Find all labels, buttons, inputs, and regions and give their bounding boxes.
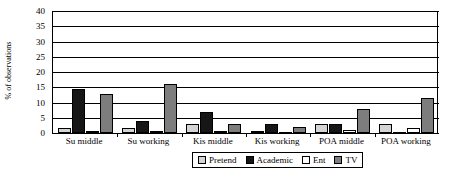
- bar-pretend[interactable]: [58, 128, 71, 133]
- legend-item-ent[interactable]: Ent: [302, 156, 326, 165]
- legend-swatch-academic-icon: [246, 156, 254, 164]
- plot-area: [52, 11, 439, 134]
- bar-group-bars: [182, 11, 246, 133]
- bar-tv[interactable]: [293, 127, 306, 133]
- bar-pretend[interactable]: [379, 124, 392, 133]
- bar-tv[interactable]: [164, 84, 177, 133]
- bar-pretend[interactable]: [251, 131, 264, 133]
- bar-ent[interactable]: [343, 130, 356, 133]
- bar-academic[interactable]: [265, 124, 278, 133]
- bar-academic[interactable]: [329, 124, 342, 133]
- bar-group-bars: [246, 11, 310, 133]
- bar-academic[interactable]: [200, 112, 213, 133]
- x-axis-category-label: Su middle: [66, 136, 103, 147]
- x-axis-category-label: POA middle: [319, 136, 364, 147]
- chart-legend: PretendAcademicEntTV: [192, 152, 363, 168]
- y-axis-tick-label: 10: [36, 98, 45, 107]
- legend-label: Ent: [313, 156, 326, 165]
- bar-ent[interactable]: [407, 128, 420, 133]
- y-axis-tick-labels: 4035302520151050: [18, 6, 48, 136]
- bar-pretend[interactable]: [315, 124, 328, 133]
- bar-academic[interactable]: [136, 121, 149, 133]
- legend-item-academic[interactable]: Academic: [246, 156, 293, 165]
- y-axis-tick-label: 15: [36, 83, 45, 92]
- bar-tv[interactable]: [357, 109, 370, 133]
- x-axis-category-label: Kis working: [255, 136, 300, 147]
- bar-ent[interactable]: [279, 132, 292, 133]
- y-axis-tick-label: 0: [41, 129, 46, 138]
- bar-chart: % of observations 4035302520151050 Su mi…: [0, 0, 451, 176]
- bar-group: [182, 11, 246, 133]
- y-axis-tick-label: 30: [36, 37, 45, 46]
- x-axis-category-label: Kis middle: [193, 136, 233, 147]
- bar-tv[interactable]: [421, 98, 434, 133]
- legend-swatch-pretend-icon: [198, 156, 206, 164]
- bar-group: [117, 11, 181, 133]
- legend-label: Pretend: [209, 156, 237, 165]
- bar-group: [375, 11, 439, 133]
- bar-group-bars: [310, 11, 374, 133]
- x-axis-category-label: Su working: [128, 136, 170, 147]
- x-axis-category-labels: Su middleSu workingKis middleKis working…: [52, 136, 438, 150]
- bar-group: [246, 11, 310, 133]
- y-axis-tick-label: 5: [41, 113, 46, 122]
- bar-group-bars: [117, 11, 181, 133]
- bar-ent[interactable]: [214, 131, 227, 133]
- legend-label: TV: [345, 156, 357, 165]
- legend-label: Academic: [257, 156, 293, 165]
- y-axis-tick-label: 20: [36, 68, 45, 77]
- bar-group-bars: [375, 11, 439, 133]
- bar-academic[interactable]: [72, 89, 85, 133]
- legend-swatch-ent-icon: [302, 156, 310, 164]
- bar-ent[interactable]: [86, 131, 99, 133]
- bar-tv[interactable]: [228, 124, 241, 133]
- bar-group: [310, 11, 374, 133]
- legend-swatch-tv-icon: [334, 156, 342, 164]
- x-axis-category-label: POA working: [381, 136, 431, 147]
- bar-pretend[interactable]: [122, 128, 135, 133]
- bar-academic[interactable]: [393, 132, 406, 133]
- y-axis-tick-label: 40: [36, 7, 45, 16]
- bar-group: [53, 11, 117, 133]
- y-axis-title-text: % of observations: [5, 41, 14, 99]
- bar-pretend[interactable]: [186, 124, 199, 133]
- legend-item-pretend[interactable]: Pretend: [198, 156, 237, 165]
- bar-ent[interactable]: [150, 131, 163, 133]
- bar-tv[interactable]: [100, 94, 113, 133]
- y-axis-tick-label: 25: [36, 52, 45, 61]
- y-axis-title: % of observations: [0, 0, 18, 140]
- y-axis-tick-label: 35: [36, 22, 45, 31]
- bar-group-bars: [53, 11, 117, 133]
- legend-item-tv[interactable]: TV: [334, 156, 357, 165]
